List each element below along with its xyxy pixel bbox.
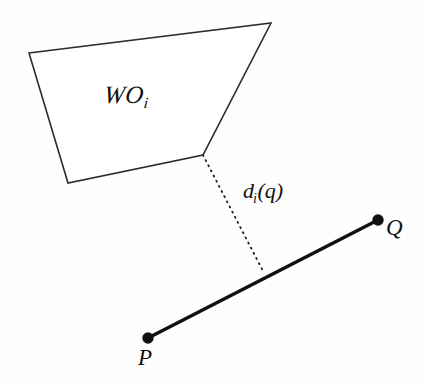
endpoint-p-dot xyxy=(142,332,153,343)
endpoint-q-dot xyxy=(372,214,383,225)
path-segment-pq xyxy=(148,220,378,338)
distance-label: di(q) xyxy=(243,180,283,205)
figure-root: WOi di(q) P Q xyxy=(0,0,427,385)
distance-dotted-line xyxy=(203,155,264,273)
endpoint-p-label: P xyxy=(138,346,152,369)
obstacle-region-label: WOi xyxy=(103,82,151,110)
workspace-obstacle-polygon xyxy=(29,23,271,183)
endpoint-q-label: Q xyxy=(386,216,403,239)
distance-label-argument: (q) xyxy=(257,178,283,203)
diagram-canvas xyxy=(0,0,427,385)
obstacle-region-label-base: WO xyxy=(103,81,146,108)
